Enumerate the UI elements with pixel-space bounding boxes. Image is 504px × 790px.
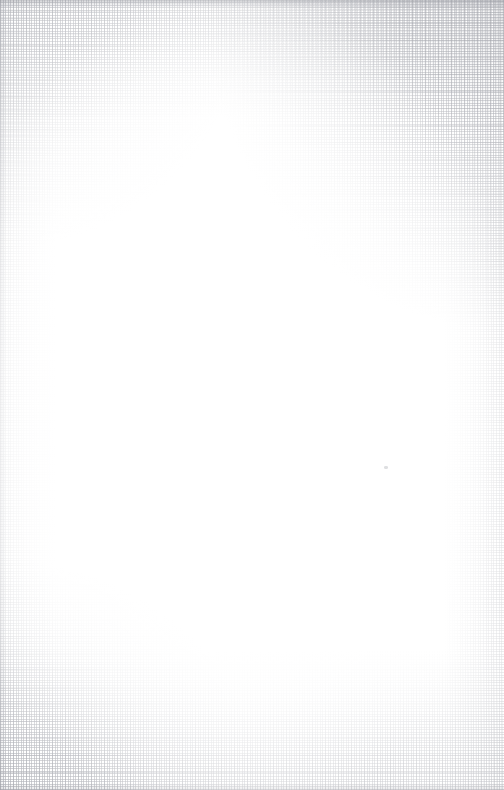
- weave-warp-threads: [0, 560, 260, 790]
- weave-texture-stack: [0, 0, 504, 790]
- canvas-sheet: [0, 0, 504, 790]
- weave-weft-threads: [0, 560, 260, 790]
- weave-slub-threads: [0, 560, 260, 790]
- texture-region-bottom-left-corner: [0, 560, 260, 790]
